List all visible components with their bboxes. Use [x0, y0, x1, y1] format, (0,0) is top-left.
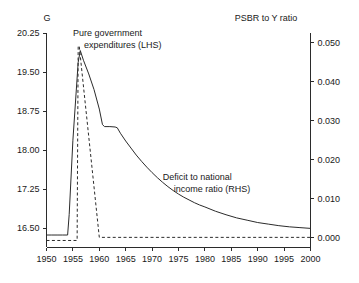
x-tick-label: 1955	[63, 254, 83, 264]
x-tick-label: 1980	[195, 254, 215, 264]
annotation-deficit-to-national-income-ratio: Deficit to national	[163, 172, 232, 182]
x-tick-label: 1970	[142, 254, 162, 264]
right-tick-label: 0.010	[318, 194, 341, 204]
annotation-deficit-to-national-income-ratio: income ratio (RHS)	[174, 184, 251, 194]
right-tick-label: 0.020	[318, 155, 341, 165]
x-tick-label: 2000	[300, 254, 320, 264]
left-tick-label: 20.25	[17, 28, 40, 38]
right-tick-label: 0.040	[318, 77, 341, 87]
right-axis-title: PSBR to Y ratio	[235, 13, 298, 23]
x-tick-label: 1975	[168, 254, 188, 264]
x-tick-label: 1995	[274, 254, 294, 264]
right-tick-label: 0.030	[318, 116, 341, 126]
left-axis-title: G	[43, 13, 50, 23]
left-tick-label: 17.25	[17, 184, 40, 194]
x-tick-label: 1965	[116, 254, 136, 264]
x-tick-label: 1950	[36, 254, 56, 264]
right-tick-label: 0.050	[318, 38, 341, 48]
x-tick-label: 1990	[248, 254, 268, 264]
annotation-pure-government-expenditures: expenditures (LHS)	[84, 40, 162, 50]
left-tick-label: 18.75	[17, 106, 40, 116]
left-tick-label: 18.00	[17, 145, 40, 155]
x-tick-label: 1960	[89, 254, 109, 264]
annotation-pure-government-expenditures: Pure government	[73, 28, 143, 38]
right-tick-label: 0.000	[318, 233, 341, 243]
chart-figure: G PSBR to Y ratio 16.5017.2518.0018.7519…	[0, 0, 359, 283]
left-tick-label: 16.50	[17, 223, 40, 233]
left-tick-label: 19.50	[17, 67, 40, 77]
x-tick-label: 1985	[221, 254, 241, 264]
line-chart: G PSBR to Y ratio 16.5017.2518.0018.7519…	[0, 0, 359, 283]
